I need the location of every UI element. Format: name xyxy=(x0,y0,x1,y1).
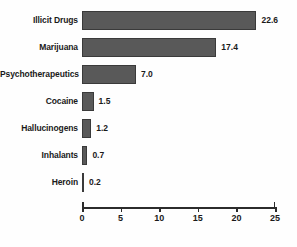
bar-value-label: 0.2 xyxy=(89,173,101,192)
bar-row: Illicit Drugs22.6 xyxy=(0,11,297,38)
bar xyxy=(82,146,87,165)
bar-value-label: 17.4 xyxy=(221,38,238,57)
bar-value-label: 1.5 xyxy=(99,92,111,111)
bar-row: Heroin0.2 xyxy=(0,173,297,200)
bar xyxy=(82,65,136,84)
bar-row: Psychotherapeutics7.0 xyxy=(0,65,297,92)
x-axis-tick-label: 5 xyxy=(106,213,136,223)
category-label: Inhalants xyxy=(0,146,78,165)
x-axis-tick-label: 15 xyxy=(183,213,213,223)
bar xyxy=(82,92,94,111)
bar-value-label: 0.7 xyxy=(92,146,104,165)
x-axis-tick xyxy=(159,207,161,212)
x-axis-line xyxy=(82,207,275,209)
x-axis-tick xyxy=(275,207,277,212)
bar-chart: Illicit Drugs22.6Marijuana17.4Psychother… xyxy=(0,0,297,247)
category-label: Heroin xyxy=(0,173,78,192)
bar-value-label: 1.2 xyxy=(96,119,108,138)
category-label: Marijuana xyxy=(0,38,78,57)
category-label: Illicit Drugs xyxy=(0,11,78,30)
bar xyxy=(82,173,84,192)
bar xyxy=(82,119,91,138)
x-axis-tick xyxy=(198,207,200,212)
category-label: Cocaine xyxy=(0,92,78,111)
x-axis-tick-label: 20 xyxy=(221,213,251,223)
x-axis-tick xyxy=(236,207,238,212)
bar xyxy=(82,38,216,57)
category-label: Psychotherapeutics xyxy=(0,65,78,84)
bar-row: Inhalants0.7 xyxy=(0,146,297,173)
x-axis-tick xyxy=(121,207,123,212)
x-axis-tick-label: 25 xyxy=(260,213,290,223)
bar-value-label: 22.6 xyxy=(261,11,278,30)
bar-row: Cocaine1.5 xyxy=(0,92,297,119)
x-axis-tick-label: 0 xyxy=(67,213,97,223)
x-axis-tick xyxy=(82,207,84,212)
category-label: Hallucinogens xyxy=(0,119,78,138)
bar-row: Hallucinogens1.2 xyxy=(0,119,297,146)
bar-row: Marijuana17.4 xyxy=(0,38,297,65)
x-axis-tick-label: 10 xyxy=(144,213,174,223)
bar xyxy=(82,11,256,30)
bar-value-label: 7.0 xyxy=(141,65,153,84)
